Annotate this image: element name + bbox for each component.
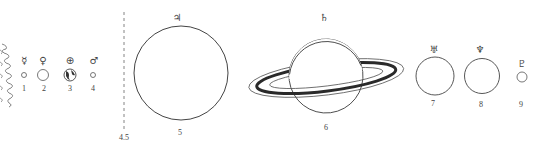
jupiter-symbol-icon: ♃ (173, 13, 182, 23)
mars-symbol-icon: ♂ (90, 56, 99, 66)
diagram-canvas (0, 0, 534, 143)
pluto-number: 9 (519, 101, 523, 109)
uranus-circle (416, 57, 454, 95)
uranus-symbol-icon: ♅ (430, 45, 439, 55)
pluto-symbol-icon: ♇ (518, 59, 527, 69)
venus-symbol-icon: ♀ (39, 56, 46, 66)
jupiter-circle (134, 26, 228, 120)
saturn-number: 6 (324, 124, 328, 132)
neptune-circle (465, 59, 500, 94)
mercury-number: 1 (22, 85, 26, 93)
earth-number: 3 (68, 85, 72, 93)
solar-system-diagram: ☿ ♀ ⊕ ♂ ♃ ♄ ♅ ♆ ♇ 1 2 3 4 5 6 7 8 9 4.5 (0, 0, 534, 143)
mercury-circle (22, 73, 27, 78)
boundary-label: 4.5 (119, 134, 129, 142)
saturn-symbol-icon: ♄ (320, 13, 329, 23)
jupiter-number: 5 (178, 129, 182, 137)
earth-symbol-icon: ⊕ (66, 56, 74, 66)
mercury-symbol-icon: ☿ (21, 56, 27, 66)
neptune-number: 8 (479, 101, 483, 109)
mars-circle (91, 73, 96, 78)
mars-number: 4 (91, 85, 95, 93)
uranus-number: 7 (431, 100, 435, 108)
neptune-symbol-icon: ♆ (476, 45, 485, 55)
venus-number: 2 (42, 85, 46, 93)
pluto-circle (517, 72, 527, 82)
earth-circle (64, 69, 76, 81)
sun-edge (0, 44, 13, 107)
venus-circle (38, 70, 49, 81)
saturn (244, 30, 408, 122)
